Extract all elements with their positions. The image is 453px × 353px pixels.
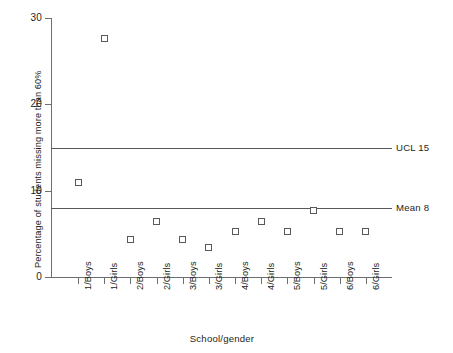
y-axis-tick-label: 30 — [14, 12, 42, 23]
data-point — [179, 236, 186, 243]
x-axis-tick — [130, 277, 131, 284]
x-axis-tick-label: 5/Girls — [318, 230, 330, 290]
control-chart: Percentage of students missing more than… — [0, 0, 453, 353]
x-axis-tick-label: 1/Boys — [82, 230, 94, 290]
x-axis-tick-label: 5/Boys — [291, 230, 303, 290]
data-point — [101, 35, 108, 42]
reference-label-ucl: UCL 15 — [396, 143, 429, 153]
data-point — [127, 236, 134, 243]
data-point — [75, 179, 82, 186]
data-point — [205, 244, 212, 251]
data-point — [258, 218, 265, 225]
x-axis-tick — [287, 277, 288, 284]
data-point — [153, 218, 160, 225]
x-axis-tick — [183, 277, 184, 284]
x-axis-tick — [340, 277, 341, 284]
x-axis-tick-label: 4/Boys — [239, 230, 251, 290]
x-axis-tick — [157, 277, 158, 284]
x-axis-tick — [104, 277, 105, 284]
data-point — [232, 228, 239, 235]
reference-line-mean — [51, 208, 392, 209]
data-point — [336, 228, 343, 235]
y-axis-title: Percentage of students missing more than… — [30, 8, 46, 268]
y-axis-tick-label: 0 — [14, 271, 42, 282]
y-axis-tick-label: 10 — [14, 185, 42, 196]
data-point — [310, 207, 317, 214]
x-axis-tick-label: 3/Girls — [213, 230, 225, 290]
x-axis-tick-label: 3/Boys — [187, 230, 199, 290]
data-point — [284, 228, 291, 235]
x-axis-tick-label: 6/Boys — [344, 230, 356, 290]
x-axis-tick-label: 2/Girls — [161, 230, 173, 290]
y-axis-tick-label: 20 — [14, 98, 42, 109]
x-axis-tick-label: 1/Girls — [108, 230, 120, 290]
data-point — [362, 228, 369, 235]
x-axis-tick-label: 4/Girls — [265, 230, 277, 290]
y-axis-tick — [45, 277, 52, 278]
x-axis-tick-label: 6/Girls — [370, 230, 382, 290]
x-axis-tick — [209, 277, 210, 284]
x-axis-title: School/gender — [52, 333, 392, 344]
y-axis-tick — [45, 18, 52, 19]
reference-label-mean: Mean 8 — [396, 203, 429, 213]
x-axis-tick — [314, 277, 315, 284]
x-axis-tick — [235, 277, 236, 284]
x-axis-tick — [261, 277, 262, 284]
y-axis-tick — [45, 104, 52, 105]
reference-line-ucl — [51, 148, 392, 149]
x-axis-tick — [366, 277, 367, 284]
y-axis-tick — [45, 191, 52, 192]
x-axis-tick — [78, 277, 79, 284]
x-axis-tick-label: 2/Boys — [134, 230, 146, 290]
